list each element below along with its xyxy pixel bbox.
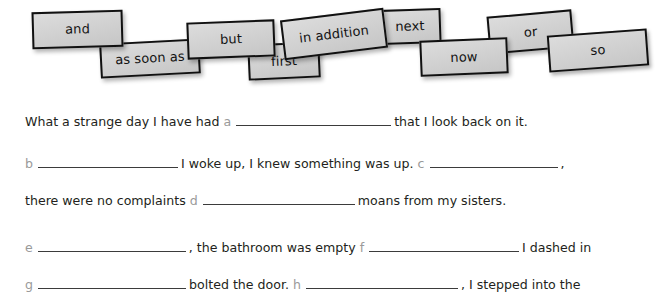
blank-label-b: b	[25, 156, 35, 171]
word-tile-but[interactable]: but	[186, 19, 275, 59]
blank-answer-field-e[interactable]	[38, 240, 186, 252]
word-tile-label: now	[450, 48, 478, 64]
blank-label-a: a	[223, 114, 233, 129]
word-tile-label: so	[590, 42, 606, 58]
word-tile-label: or	[523, 23, 538, 39]
sentence-line-4: e, the bathroom was emptyfI dashed in	[25, 240, 654, 262]
sentence-text: What a strange day I have had	[25, 114, 219, 129]
sentence-line-2: bI woke up, I knew something was up.c,	[25, 156, 654, 178]
word-tile-now[interactable]: now	[419, 37, 508, 77]
sentence-line-3: there were no complaintsdmoans from my s…	[25, 193, 654, 215]
word-tile-label: and	[65, 21, 90, 37]
sentence-text: moans from my sisters.	[358, 193, 506, 208]
blank-answer-field-d[interactable]	[203, 193, 355, 205]
blank-answer-field-h[interactable]	[306, 277, 458, 289]
blank-label-d: d	[190, 193, 200, 208]
blank-answer-field-b[interactable]	[38, 156, 178, 168]
blank-answer-field-a[interactable]	[236, 114, 391, 126]
worksheet-sentences: What a strange day I have hadathat I loo…	[0, 100, 662, 297]
sentence-text: that I look back on it.	[394, 114, 528, 129]
sentence-text: , the bathroom was empty	[189, 240, 356, 255]
blank-label-f: f	[360, 240, 366, 255]
blank-label-e: e	[25, 240, 35, 255]
blank-label-h: h	[293, 277, 303, 292]
word-tile-label: as soon as	[115, 49, 185, 68]
connective-word-tile-bank: andas soon asbutfirstin additionnextnowo…	[0, 0, 662, 100]
blank-answer-field-f[interactable]	[369, 240, 519, 252]
sentence-line-5: gbolted the door.h, I stepped into the	[25, 277, 654, 297]
word-tile-label: next	[395, 18, 425, 34]
blank-answer-field-c[interactable]	[430, 156, 558, 168]
blank-label-g: g	[25, 277, 35, 292]
word-tile-and[interactable]: and	[32, 10, 124, 50]
blank-answer-field-g[interactable]	[38, 277, 186, 289]
sentence-text: , I stepped into the	[461, 277, 581, 292]
word-tile-label: in addition	[298, 22, 369, 45]
sentence-line-1: What a strange day I have hadathat I loo…	[25, 114, 654, 136]
sentence-text: bolted the door.	[189, 277, 289, 292]
word-tile-in-addition[interactable]: in addition	[280, 8, 388, 60]
blank-label-c: c	[418, 156, 427, 171]
sentence-text: ,	[561, 156, 565, 171]
sentence-text: I woke up, I knew something was up.	[181, 156, 414, 171]
sentence-text: there were no complaints	[25, 193, 186, 208]
word-tile-label: but	[220, 31, 242, 47]
word-tile-so[interactable]: so	[547, 28, 649, 72]
sentence-text: I dashed in	[522, 240, 591, 255]
